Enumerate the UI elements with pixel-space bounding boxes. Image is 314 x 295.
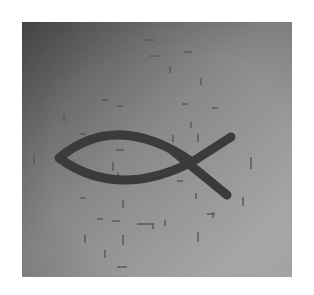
speck-mark xyxy=(112,162,114,171)
speck-mark xyxy=(144,39,154,41)
speck-mark xyxy=(104,250,106,258)
speck-mark xyxy=(164,220,166,226)
speck-mark xyxy=(172,135,174,142)
speck-mark xyxy=(84,235,86,243)
speck-mark xyxy=(177,180,183,182)
speck-mark xyxy=(212,107,218,109)
speck-mark xyxy=(137,223,153,225)
speck-mark xyxy=(80,197,86,199)
speck-mark xyxy=(184,51,192,53)
speck-mark xyxy=(122,235,124,245)
speck-mark xyxy=(117,105,123,107)
speck-mark xyxy=(200,78,202,85)
speck-mark xyxy=(122,200,124,208)
speck-mark xyxy=(242,197,244,206)
speck-mark xyxy=(33,154,35,164)
speck-mark xyxy=(169,66,171,73)
speck-mark xyxy=(116,149,124,151)
speck-mark xyxy=(152,223,154,229)
speck-mark xyxy=(150,55,159,57)
photo-graphic xyxy=(22,22,292,277)
speck-mark xyxy=(197,134,199,142)
vignette-overlay xyxy=(22,22,292,277)
fish-symbol-photo xyxy=(22,22,292,277)
speck-mark xyxy=(182,103,188,105)
speck-mark xyxy=(207,213,215,215)
speck-mark xyxy=(195,193,197,199)
speck-mark xyxy=(190,122,192,128)
image-canvas xyxy=(0,0,314,295)
speck-mark xyxy=(80,133,86,135)
speck-mark xyxy=(250,157,252,169)
speck-mark xyxy=(197,232,199,242)
speck-mark xyxy=(63,114,65,122)
speck-mark xyxy=(112,220,120,222)
speck-mark xyxy=(117,266,127,268)
speck-mark xyxy=(102,99,108,101)
speck-mark xyxy=(97,218,103,220)
